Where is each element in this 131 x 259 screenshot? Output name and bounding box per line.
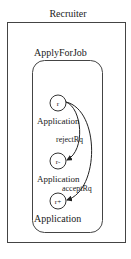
transition-accept-label: acceptRq (62, 184, 92, 193)
transition-reject-label: rejectRq (56, 135, 83, 144)
state-r-minus-caption: Application (37, 174, 80, 184)
outer-title: Recruiter (49, 8, 87, 19)
state-r-caption: Application (37, 116, 80, 126)
transition-reject (66, 102, 80, 160)
diagram: Recruiter ApplyForJob r Application r- A… (0, 0, 131, 259)
state-r-plus-label: r+ (55, 198, 61, 206)
state-r-minus-label: r- (56, 158, 61, 166)
state-r-plus-caption: Application (34, 213, 81, 224)
inner-title: ApplyForJob (34, 47, 87, 58)
